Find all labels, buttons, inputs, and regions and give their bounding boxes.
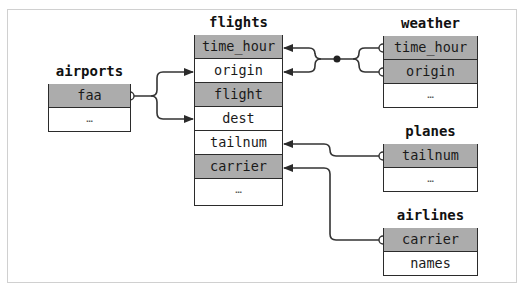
weather-to-flights-connector (284, 48, 380, 72)
table-title: weather (383, 15, 478, 31)
airlines-to-flights-connector (284, 168, 380, 240)
table-title: airlines (383, 207, 478, 223)
airports-to-flights-connector (134, 72, 193, 119)
field-origin: origin (194, 59, 283, 83)
field-more: … (48, 108, 131, 132)
field-time_hour: time_hour (383, 36, 478, 60)
field-flight: flight (194, 83, 283, 107)
field-more: … (383, 168, 478, 192)
table-airlines: airlines carrier names (383, 228, 478, 276)
table-flights: flights time_hour origin flight dest tai… (194, 35, 283, 206)
field-names: names (383, 252, 478, 276)
field-dest: dest (194, 107, 283, 131)
field-origin: origin (383, 60, 478, 84)
field-tailnum: tailnum (194, 131, 283, 155)
field-time_hour: time_hour (194, 35, 283, 59)
field-carrier: carrier (194, 155, 283, 179)
table-airports: airports faa … (48, 84, 131, 132)
table-weather: weather time_hour origin … (383, 36, 478, 108)
table-title: planes (383, 123, 478, 139)
table-title: flights (194, 14, 283, 30)
field-more: … (383, 84, 478, 108)
table-title: airports (48, 63, 131, 79)
planes-to-flights-connector (284, 144, 380, 156)
field-faa: faa (48, 84, 131, 108)
junction-dot (334, 56, 341, 63)
field-tailnum: tailnum (383, 144, 478, 168)
field-carrier: carrier (383, 228, 478, 252)
table-planes: planes tailnum … (383, 144, 478, 192)
field-more: … (194, 179, 283, 206)
